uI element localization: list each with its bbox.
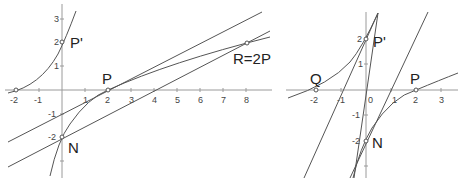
left-x-tick-label: 5 xyxy=(175,95,180,105)
right-label-p-prime: P' xyxy=(373,33,386,50)
right-x-tick-label: 3 xyxy=(439,95,444,105)
left-y-tick-label: -2 xyxy=(48,132,56,142)
right-label-p: P xyxy=(410,70,420,87)
right-point-n xyxy=(364,139,368,143)
left-point-r xyxy=(245,41,249,45)
right-lower-branch xyxy=(353,73,458,178)
left-point-n xyxy=(60,135,64,139)
left-x-tick-label: 8 xyxy=(244,95,249,105)
left-line-tangent-p xyxy=(8,12,262,142)
left-y-tick-label: 2 xyxy=(54,37,59,47)
left-x-tick-label: -2 xyxy=(10,95,18,105)
right-point-p xyxy=(414,88,418,92)
left-label-n: N xyxy=(68,139,79,156)
right-y-tick-label: -1 xyxy=(352,110,360,120)
left-point-minus2 xyxy=(14,88,18,92)
left-label-r: R=2P xyxy=(233,50,271,67)
left-point-p-prime xyxy=(60,40,64,44)
left-point-p xyxy=(106,88,110,92)
figure: -2 -1 1 2 3 4 5 6 7 8 3 2 1 -1 -2 P' P N… xyxy=(0,0,463,181)
right-x-tick-label: 2 xyxy=(413,95,418,105)
left-label-p-prime: P' xyxy=(70,34,83,51)
left-x-tick-label: 6 xyxy=(198,95,203,105)
right-point-p-prime xyxy=(364,37,368,41)
left-y-tick-label: 1 xyxy=(54,61,59,71)
left-x-tick-label: 4 xyxy=(152,95,157,105)
left-x-tick-label: -1 xyxy=(34,95,42,105)
right-label-q: Q xyxy=(310,70,322,87)
right-x-tick-label: 0 xyxy=(368,95,373,105)
left-label-p: P xyxy=(102,70,112,87)
right-upper-branch xyxy=(288,13,378,98)
left-y-tick-label: 3 xyxy=(54,14,59,24)
right-x-tick-label: -2 xyxy=(310,95,318,105)
left-x-tick-label: 7 xyxy=(221,95,226,105)
right-label-n: N xyxy=(372,134,383,151)
right-plot: -2 -1 0 1 2 3 2 1 -1 -2 P' P Q N xyxy=(286,12,458,178)
right-point-q xyxy=(314,88,318,92)
right-y-tick-label: 2 xyxy=(357,34,362,44)
left-upper-branch xyxy=(8,11,76,93)
left-x-tick-label: 2 xyxy=(105,95,110,105)
left-line-nr xyxy=(8,31,270,167)
right-y-tick-label: 1 xyxy=(358,59,363,69)
left-plot: -2 -1 1 2 3 4 5 6 7 8 3 2 1 -1 -2 P' P N… xyxy=(5,4,272,178)
